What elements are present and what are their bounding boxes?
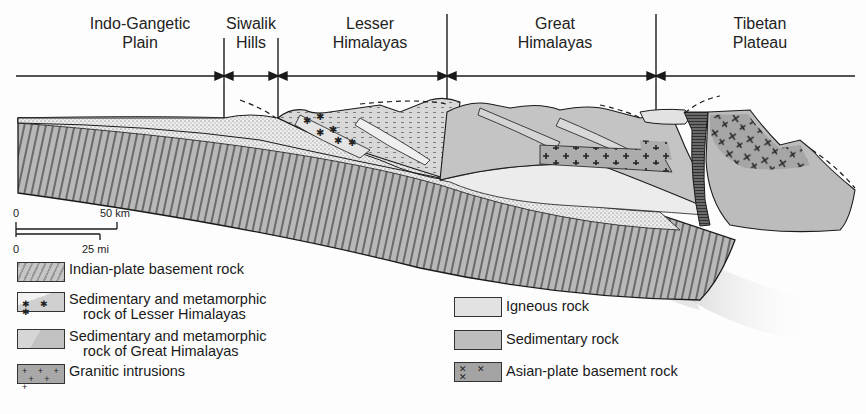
legend-asian-plate: ✕ ✕ ✕ Asian-plate basement rock — [454, 362, 678, 382]
legend-granitic-intrusions: + + + + + + Granitic intrusions — [17, 364, 185, 384]
legend-label: Sedimentary rock — [506, 332, 619, 347]
x-pattern-swatch-icon: ✕ ✕ ✕ — [454, 362, 502, 382]
legend-label: Sedimentary and metamorphicrock of Great… — [69, 329, 266, 359]
svg-text:✱: ✱ — [316, 127, 324, 138]
svg-text:✱: ✱ — [303, 115, 311, 126]
diagonal-hatch-swatch-icon — [17, 262, 65, 282]
scale-bar — [16, 222, 117, 240]
legend-indian-plate: Indian-plate basement rock — [17, 262, 244, 282]
svg-text:✱: ✱ — [316, 111, 324, 122]
legend-great-himalayas: Sedimentary and metamorphicrock of Great… — [17, 329, 266, 359]
scale-km-start: 0 — [13, 207, 19, 219]
dotted-granite-swatch-icon: ✱ ✱ ✱ — [17, 292, 65, 312]
scale-mi-end: 25 mi — [82, 243, 109, 255]
legend-lesser-himalayas: ✱ ✱ ✱ Sedimentary and metamorphicrock of… — [17, 292, 266, 322]
mid-gray-swatch-icon — [454, 330, 502, 350]
stippled-block-swatch-icon — [17, 329, 65, 349]
scale-mi-start: 0 — [13, 243, 19, 255]
legend-label: Igneous rock — [506, 299, 589, 314]
svg-text:✱: ✱ — [329, 124, 337, 135]
svg-text:✱: ✱ — [348, 137, 356, 148]
cross-pattern-swatch-icon: + + + + + + — [17, 364, 65, 384]
legend-label: Asian-plate basement rock — [506, 364, 678, 379]
legend-label: Granitic intrusions — [69, 364, 185, 379]
legend-sedimentary: Sedimentary rock — [454, 330, 619, 350]
legend-label: Sedimentary and metamorphicrock of Lesse… — [69, 292, 266, 322]
legend-igneous: Igneous rock — [454, 297, 589, 317]
legend-label: Indian-plate basement rock — [69, 262, 244, 277]
light-gray-swatch-icon — [454, 297, 502, 317]
svg-text:✱: ✱ — [334, 135, 342, 146]
scale-km-end: 50 km — [100, 207, 130, 219]
